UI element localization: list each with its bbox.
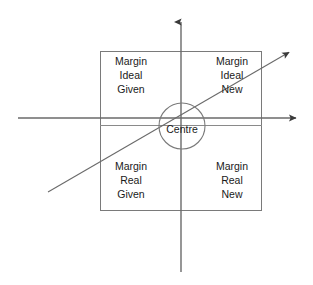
- diagram-canvas: Margin Ideal Given Margin Ideal New Marg…: [0, 0, 313, 285]
- quadrant-label-bottom-left-line1: Margin: [100, 159, 162, 173]
- quadrant-label-bottom-left-line3: Given: [100, 187, 162, 201]
- quadrant-label-top-left: Margin Ideal Given: [100, 54, 162, 96]
- quadrant-label-top-left-line2: Ideal: [100, 68, 162, 82]
- centre-label: Centre: [156, 123, 208, 136]
- quadrant-label-top-left-line3: Given: [100, 82, 162, 96]
- diagram-graphics: [0, 0, 313, 285]
- quadrant-label-top-left-line1: Margin: [100, 54, 162, 68]
- quadrant-label-top-right: Margin Ideal New: [201, 54, 263, 96]
- quadrant-label-top-right-line1: Margin: [201, 54, 263, 68]
- quadrant-label-bottom-right-line3: New: [201, 187, 263, 201]
- quadrant-label-top-right-line2: Ideal: [201, 68, 263, 82]
- quadrant-label-bottom-right: Margin Real New: [201, 159, 263, 201]
- quadrant-label-bottom-right-line1: Margin: [201, 159, 263, 173]
- quadrant-label-bottom-left-line2: Real: [100, 173, 162, 187]
- quadrant-label-bottom-left: Margin Real Given: [100, 159, 162, 201]
- quadrant-label-bottom-right-line2: Real: [201, 173, 263, 187]
- quadrant-label-top-right-line3: New: [201, 82, 263, 96]
